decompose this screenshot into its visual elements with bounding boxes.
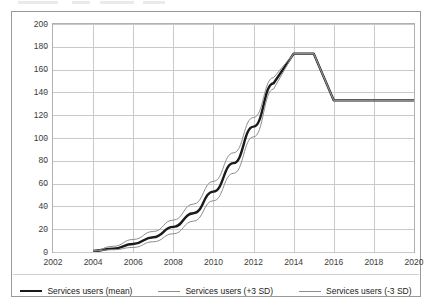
y-tick-mark-60 [45, 184, 48, 185]
x-tick-label-2008: 2008 [153, 257, 193, 267]
y-tick-mark-160 [45, 70, 48, 71]
legend-label-mean: Services users (mean) [47, 286, 132, 296]
series-lines [53, 24, 414, 252]
legend-label-minus3sd: Services users (-3 SD) [326, 286, 412, 296]
plot-wrapper: 020406080100120140160180200 200220042006… [12, 12, 422, 262]
y-axis: 020406080100120140160180200 [12, 23, 48, 253]
x-tick-label-2006: 2006 [113, 257, 153, 267]
x-tick-label-2004: 2004 [73, 257, 113, 267]
x-tick-label-2014: 2014 [274, 257, 314, 267]
y-tick-mark-20 [45, 229, 48, 230]
legend-label-plus3sd: Services users (+3 SD) [185, 286, 273, 296]
y-tick-mark-100 [45, 138, 48, 139]
y-tick-label-60: 60 [14, 179, 48, 188]
x-tick-label-2012: 2012 [234, 257, 274, 267]
y-tick-mark-40 [45, 206, 48, 207]
y-tick-mark-80 [45, 161, 48, 162]
y-tick-label-120: 120 [14, 111, 48, 120]
x-tick-label-2002: 2002 [33, 257, 73, 267]
plot-area [52, 23, 415, 253]
y-tick-mark-140 [45, 92, 48, 93]
y-tick-label-100: 100 [14, 134, 48, 143]
x-tick-label-2010: 2010 [193, 257, 233, 267]
series-path-0 [93, 54, 414, 251]
y-tick-mark-180 [45, 47, 48, 48]
clipped-title-remnant [0, 0, 433, 10]
legend-item-mean[interactable]: Services users (mean) [20, 286, 132, 296]
chart-screenshot: 020406080100120140160180200 200220042006… [0, 0, 433, 308]
y-tick-mark-120 [45, 115, 48, 116]
legend-line-icon-plus3sd [158, 291, 180, 292]
y-tick-label-200: 200 [14, 20, 48, 29]
legend-line-icon-minus3sd [299, 291, 321, 292]
y-tick-mark-0 [45, 252, 48, 253]
series-path-1 [93, 54, 414, 251]
chart-container: 020406080100120140160180200 200220042006… [11, 11, 421, 297]
y-tick-label-0: 0 [14, 248, 48, 257]
chart-legend: Services users (mean) Services users (+3… [12, 280, 420, 302]
y-tick-label-180: 180 [14, 42, 48, 51]
x-tick-label-2018: 2018 [354, 257, 394, 267]
y-tick-label-40: 40 [14, 202, 48, 211]
x-tick-label-2016: 2016 [314, 257, 354, 267]
legend-item-minus3sd[interactable]: Services users (-3 SD) [299, 286, 412, 296]
legend-line-icon-mean [20, 290, 42, 292]
y-tick-mark-200 [45, 24, 48, 25]
legend-item-plus3sd[interactable]: Services users (+3 SD) [158, 286, 273, 296]
gridline-y-0 [53, 252, 414, 253]
y-tick-label-20: 20 [14, 225, 48, 234]
legend-separator [13, 274, 419, 275]
series-path-2 [93, 54, 414, 251]
y-tick-label-80: 80 [14, 156, 48, 165]
y-tick-label-160: 160 [14, 65, 48, 74]
y-tick-label-140: 140 [14, 88, 48, 97]
x-tick-label-2020: 2020 [394, 257, 433, 267]
